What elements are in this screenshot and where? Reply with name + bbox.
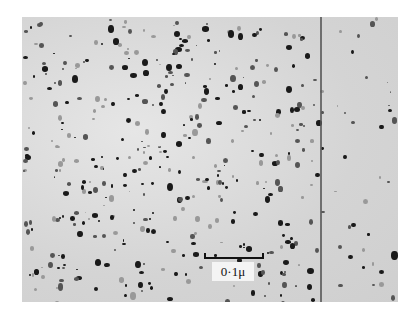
particle xyxy=(39,22,42,26)
particle xyxy=(61,129,63,130)
particle xyxy=(313,79,317,81)
particle xyxy=(53,101,58,107)
particle xyxy=(208,224,212,229)
particle xyxy=(88,191,93,194)
particle xyxy=(32,273,34,276)
particle xyxy=(236,179,238,182)
particle xyxy=(63,61,67,66)
particle xyxy=(209,78,211,81)
particle xyxy=(103,168,105,170)
particle xyxy=(61,122,64,125)
particle xyxy=(292,64,295,68)
particle xyxy=(242,110,247,113)
particle xyxy=(192,129,197,136)
particle xyxy=(74,211,79,214)
particle xyxy=(91,158,95,161)
particle xyxy=(57,267,60,269)
particle xyxy=(161,132,166,139)
particle xyxy=(270,132,273,135)
particle xyxy=(231,139,234,143)
particle xyxy=(187,35,191,39)
particle xyxy=(85,59,88,62)
particle xyxy=(157,84,161,87)
particle xyxy=(247,110,251,113)
particle xyxy=(74,159,79,162)
particle xyxy=(183,124,185,126)
particle xyxy=(305,53,311,60)
particle xyxy=(143,218,147,221)
particle xyxy=(301,84,304,88)
particle xyxy=(391,251,397,259)
particle xyxy=(113,38,119,45)
particle xyxy=(300,38,303,40)
particle xyxy=(114,249,116,251)
particle xyxy=(52,216,56,222)
particle xyxy=(344,112,346,114)
particle xyxy=(145,129,150,135)
particle xyxy=(62,68,65,70)
particle xyxy=(379,176,381,179)
particle xyxy=(28,127,30,129)
particle xyxy=(206,23,208,25)
particle xyxy=(348,255,353,259)
particle xyxy=(70,216,75,221)
particle xyxy=(388,109,392,112)
particle xyxy=(302,148,306,152)
particle xyxy=(311,160,313,162)
particle xyxy=(191,58,193,61)
particle xyxy=(159,166,161,168)
particle xyxy=(292,34,296,39)
particle xyxy=(351,121,355,124)
particle xyxy=(190,118,193,120)
particle xyxy=(256,181,259,184)
particle xyxy=(215,97,219,100)
particle xyxy=(128,58,130,59)
particle xyxy=(111,184,114,188)
particle xyxy=(42,66,48,71)
particle xyxy=(143,193,145,196)
particle xyxy=(315,248,319,253)
particle xyxy=(184,73,189,77)
particle xyxy=(362,248,365,252)
particle xyxy=(58,161,63,167)
particle xyxy=(122,243,125,245)
particle xyxy=(23,159,28,163)
particle xyxy=(138,282,143,288)
particle xyxy=(280,245,283,249)
particle xyxy=(301,106,305,110)
particle xyxy=(309,219,313,225)
particle xyxy=(143,147,145,148)
particle xyxy=(307,268,313,274)
particle xyxy=(150,286,154,290)
particle xyxy=(286,45,292,50)
particle xyxy=(29,97,33,100)
particle xyxy=(75,63,80,68)
particle xyxy=(243,247,245,249)
particle xyxy=(390,91,392,92)
particle xyxy=(141,183,144,185)
particle xyxy=(257,263,261,268)
particle xyxy=(74,137,76,138)
particle xyxy=(124,294,127,298)
particle xyxy=(166,156,169,158)
particle xyxy=(282,273,285,276)
particle xyxy=(261,270,265,275)
particle xyxy=(232,90,235,93)
particle xyxy=(56,287,58,289)
particle xyxy=(201,98,206,102)
particle xyxy=(29,220,32,224)
particle xyxy=(58,80,62,86)
particle xyxy=(198,103,202,108)
particle xyxy=(178,170,181,174)
particle xyxy=(175,21,179,26)
particle xyxy=(298,264,301,266)
particle xyxy=(130,292,135,299)
particle xyxy=(348,225,351,228)
particle xyxy=(141,290,143,292)
particle xyxy=(291,124,294,127)
particle xyxy=(286,86,292,93)
particle xyxy=(69,35,72,38)
particle xyxy=(265,181,267,183)
particle xyxy=(149,156,153,160)
particle xyxy=(218,195,220,198)
